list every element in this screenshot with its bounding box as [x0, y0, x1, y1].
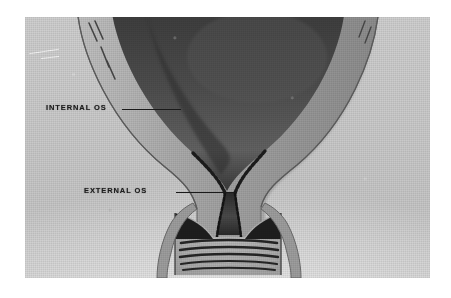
leader-line-internal-os — [122, 109, 181, 110]
label-external-os: EXTERNAL OS — [84, 186, 147, 195]
leader-line-external-os — [176, 192, 236, 193]
halftone-plate — [25, 17, 430, 278]
label-internal-os: INTERNAL OS — [46, 103, 107, 112]
anatomical-figure: INTERNAL OS EXTERNAL OS — [0, 0, 451, 298]
uterus-cervix-illustration — [25, 17, 430, 278]
